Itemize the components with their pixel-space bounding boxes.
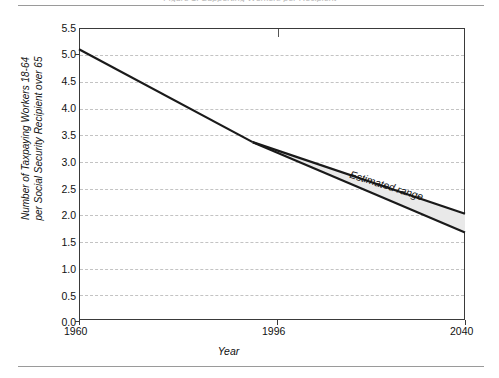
x-tick-label-1960: 1960: [64, 326, 87, 337]
x-axis-title-text: Year: [218, 345, 240, 357]
x-axis-title: Year: [0, 345, 499, 357]
x-tick-label-1996: 1996: [262, 326, 285, 337]
x-tick-label-2040: 2040: [450, 326, 473, 337]
estimate-lower-line: [253, 142, 465, 232]
historical-line: [79, 49, 253, 142]
chart-series-layer: [0, 0, 499, 378]
